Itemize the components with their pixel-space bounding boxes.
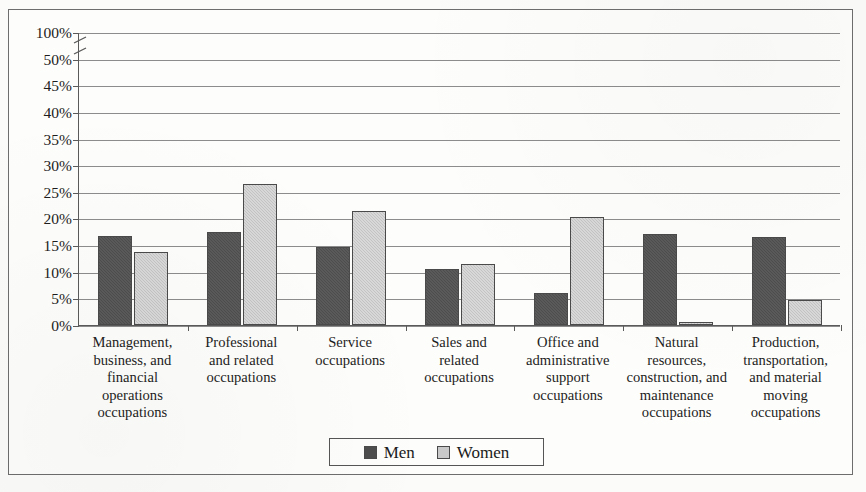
bar-group xyxy=(297,33,406,325)
bar-women xyxy=(134,252,168,325)
bar-men xyxy=(316,247,350,325)
bar-women xyxy=(243,184,277,325)
category-label-line: and material xyxy=(727,369,844,387)
category-label-line: maintenance xyxy=(618,387,735,405)
category-label-line: operations xyxy=(74,387,191,405)
category-label-line: moving xyxy=(727,387,844,405)
bar-group xyxy=(406,33,515,325)
category-label: Production,transportation,and materialmo… xyxy=(727,334,844,422)
bar-women xyxy=(788,300,822,325)
y-axis-tick-label: 100% xyxy=(14,25,72,41)
x-axis-tick xyxy=(188,325,189,331)
plot-area xyxy=(78,33,840,326)
bar-group xyxy=(732,33,841,325)
bar-men xyxy=(98,236,132,325)
bar-women xyxy=(679,322,713,325)
bar-group xyxy=(79,33,188,325)
x-axis-category-labels: Management,business, andfinancialoperati… xyxy=(78,334,840,430)
y-axis-tick-label: 50% xyxy=(14,52,72,68)
legend-entry-women: Women xyxy=(437,444,509,461)
x-axis-tick xyxy=(514,325,515,331)
category-label: Management,business, andfinancialoperati… xyxy=(74,334,191,422)
category-label-line: Office and xyxy=(509,334,626,352)
chart-figure: 100%50%45%40%35%30%25%20%15%10%5%0% Mana… xyxy=(0,0,866,492)
gridline xyxy=(79,326,840,327)
y-axis-tick-label: 20% xyxy=(14,211,72,227)
category-label-line: Professional xyxy=(183,334,300,352)
y-axis-tick-label: 10% xyxy=(14,265,72,281)
y-axis-tick-label: 0% xyxy=(14,318,72,334)
y-axis-tick-label: 25% xyxy=(14,185,72,201)
x-axis-tick xyxy=(732,325,733,331)
y-axis-tick-label: 5% xyxy=(14,291,72,307)
category-label-line: resources, xyxy=(618,352,735,370)
category-label-line: Management, xyxy=(74,334,191,352)
category-label-line: occupations xyxy=(401,369,518,387)
bar-men xyxy=(752,237,786,325)
y-axis-tick-label: 30% xyxy=(14,158,72,174)
legend-swatch-women xyxy=(437,446,450,459)
category-label-line: Natural xyxy=(618,334,735,352)
category-label: Naturalresources,construction, andmainte… xyxy=(618,334,735,422)
bar-group xyxy=(188,33,297,325)
y-axis-tick-labels: 100%50%45%40%35%30%25%20%15%10%5%0% xyxy=(14,33,72,326)
bar-women xyxy=(461,264,495,325)
category-label-line: occupations xyxy=(292,352,409,370)
x-axis-tick xyxy=(841,325,842,331)
bar-men xyxy=(207,232,241,325)
category-label-line: Service xyxy=(292,334,409,352)
category-label: Office andadministrativesupportoccupatio… xyxy=(509,334,626,404)
legend-label: Women xyxy=(457,444,509,461)
category-label-line: support xyxy=(509,369,626,387)
category-label: Serviceoccupations xyxy=(292,334,409,369)
category-label-line: occupations xyxy=(618,404,735,422)
y-axis-tick xyxy=(73,326,79,327)
bar-women xyxy=(352,211,386,325)
category-label-line: occupations xyxy=(509,387,626,405)
category-label-line: construction, and xyxy=(618,369,735,387)
category-label-line: business, and xyxy=(74,352,191,370)
y-axis-tick-label: 45% xyxy=(14,78,72,94)
bar-men xyxy=(534,293,568,325)
bar-group xyxy=(514,33,623,325)
y-axis-tick-label: 15% xyxy=(14,238,72,254)
category-label-line: Sales and xyxy=(401,334,518,352)
y-axis-tick-label: 35% xyxy=(14,132,72,148)
chart-legend: MenWomen xyxy=(329,438,544,466)
category-label-line: Production, xyxy=(727,334,844,352)
y-axis-tick-label: 40% xyxy=(14,105,72,121)
category-label: Sales andrelatedoccupations xyxy=(401,334,518,387)
category-label-line: and related xyxy=(183,352,300,370)
category-label-line: occupations xyxy=(727,404,844,422)
bar-men xyxy=(643,234,677,325)
x-axis-tick xyxy=(297,325,298,331)
bar-men xyxy=(425,269,459,325)
category-label-line: occupations xyxy=(74,404,191,422)
x-axis-tick xyxy=(623,325,624,331)
legend-entry-men: Men xyxy=(364,444,415,461)
bar-group xyxy=(623,33,732,325)
x-axis-tick xyxy=(406,325,407,331)
bar-women xyxy=(570,217,604,325)
category-label-line: transportation, xyxy=(727,352,844,370)
category-label: Professionaland relatedoccupations xyxy=(183,334,300,387)
category-label-line: related xyxy=(401,352,518,370)
category-label-line: occupations xyxy=(183,369,300,387)
category-label-line: administrative xyxy=(509,352,626,370)
legend-label: Men xyxy=(384,444,415,461)
legend-swatch-men xyxy=(364,446,377,459)
category-label-line: financial xyxy=(74,369,191,387)
